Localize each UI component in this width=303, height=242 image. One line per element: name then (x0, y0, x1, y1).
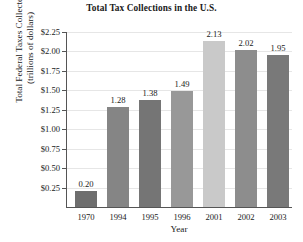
y-tick-label: $0.25 (41, 183, 60, 193)
bar-value-label: 1.95 (262, 43, 294, 53)
tick-mark (62, 71, 66, 72)
bar (139, 100, 161, 207)
tick-mark (62, 188, 66, 189)
x-axis-line (66, 207, 292, 208)
bar-series: 0.2019701.2819941.3819951.4919962.132001… (67, 32, 292, 207)
bar-group-2002: 2.022002 (230, 32, 262, 207)
x-axis-title: Year (66, 224, 292, 234)
bar-value-label: 2.02 (230, 38, 262, 48)
bar-group-1970: 0.201970 (70, 32, 102, 207)
y-axis-title: Total Federal Taxes Collected (trillions… (12, 0, 38, 133)
tick-mark (62, 32, 66, 33)
bar (171, 91, 193, 207)
bar (235, 50, 257, 207)
y-tick-label: $2.25 (41, 27, 60, 37)
chart-title: Total Tax Collections in the U.S. (0, 3, 303, 13)
y-tick-label: $1.25 (41, 105, 60, 115)
x-tick-label: 2001 (196, 212, 232, 222)
bar (75, 191, 97, 207)
bar-value-label: 0.20 (70, 179, 102, 189)
x-tick-label: 1994 (100, 212, 136, 222)
tick-mark (62, 129, 66, 130)
tick-mark (62, 110, 66, 111)
bar-value-label: 2.13 (198, 29, 230, 39)
x-tick-label: 1996 (164, 212, 200, 222)
tick-mark (62, 90, 66, 91)
y-tick-label: $0.75 (41, 144, 60, 154)
y-tick-label: $2.00 (41, 46, 60, 56)
x-tick-label: 2003 (260, 212, 296, 222)
y-axis-title-line-1: Total Federal Taxes Collected (14, 0, 26, 103)
x-tick-label: 2002 (228, 212, 264, 222)
bar-value-label: 1.38 (134, 88, 166, 98)
y-tick-label: $1.00 (41, 124, 60, 134)
bar-group-1994: 1.281994 (102, 32, 134, 207)
bar-value-label: 1.28 (102, 95, 134, 105)
bar (267, 55, 289, 207)
plot-area: $0.25$0.50$0.75$1.00$1.25$1.50$1.75$2.00… (66, 32, 292, 207)
y-tick-label: $1.75 (41, 66, 60, 76)
x-tick-label: 1970 (68, 212, 104, 222)
bar-group-2003: 1.952003 (262, 32, 294, 207)
bar (203, 41, 225, 207)
y-tick-label: $1.50 (41, 85, 60, 95)
y-axis-title-line-2: (trillions of dollars) (25, 0, 37, 103)
bar-group-1996: 1.491996 (166, 32, 198, 207)
bar-chart: Total Tax Collections in the U.S. Total … (0, 0, 303, 242)
x-tick-label: 1995 (132, 212, 168, 222)
tick-mark (62, 51, 66, 52)
y-tick-label: $0.50 (41, 163, 60, 173)
tick-mark (62, 168, 66, 169)
bar-value-label: 1.49 (166, 79, 198, 89)
bar-group-2001: 2.132001 (198, 32, 230, 207)
bar (107, 107, 129, 207)
tick-mark (62, 149, 66, 150)
bar-group-1995: 1.381995 (134, 32, 166, 207)
